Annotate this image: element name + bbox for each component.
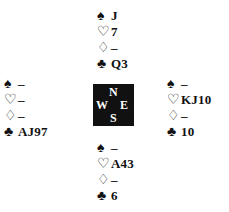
south-clubs: ♣6 <box>97 188 134 204</box>
north-hearts-cards: 7 <box>111 24 118 39</box>
spade-icon: ♠ <box>167 76 181 92</box>
diamond-icon: ♢ <box>97 172 111 188</box>
north-hearts: ♡7 <box>97 24 128 40</box>
south-clubs-cards: 6 <box>111 188 118 203</box>
south-hearts-cards: A43 <box>111 156 134 171</box>
south-hand: ♠– ♡A43 ♢– ♣6 <box>97 140 134 204</box>
west-spades-cards: – <box>18 76 25 91</box>
west-hand: ♠– ♡– ♢– ♣AJ97 <box>4 76 48 140</box>
south-hearts: ♡A43 <box>97 156 134 172</box>
north-diamonds-cards: – <box>111 40 118 55</box>
diamond-icon: ♢ <box>4 108 18 124</box>
south-spades-cards: – <box>111 140 118 155</box>
west-diamonds-cards: – <box>18 108 25 123</box>
north-spades-cards: J <box>111 8 118 23</box>
north-spades: ♠J <box>97 8 128 24</box>
west-clubs-cards: AJ97 <box>18 124 48 139</box>
east-diamonds: ♢– <box>167 108 211 124</box>
east-clubs-cards: 10 <box>181 124 194 139</box>
spade-icon: ♠ <box>97 140 111 156</box>
east-spades: ♠– <box>167 76 211 92</box>
diamond-icon: ♢ <box>167 108 181 124</box>
heart-icon: ♡ <box>4 92 18 108</box>
spade-icon: ♠ <box>97 8 111 24</box>
club-icon: ♣ <box>97 56 111 72</box>
club-icon: ♣ <box>4 124 18 140</box>
club-icon: ♣ <box>97 188 111 204</box>
north-diamonds: ♢– <box>97 40 128 56</box>
spade-icon: ♠ <box>4 76 18 92</box>
east-clubs: ♣10 <box>167 124 211 140</box>
compass-table: N W E S <box>93 84 134 126</box>
south-diamonds: ♢– <box>97 172 134 188</box>
east-hand: ♠– ♡KJ10 ♢– ♣10 <box>167 76 211 140</box>
compass-west: W <box>96 99 108 111</box>
north-clubs: ♣Q3 <box>97 56 128 72</box>
east-spades-cards: – <box>181 76 188 91</box>
west-clubs: ♣AJ97 <box>4 124 48 140</box>
heart-icon: ♡ <box>97 156 111 172</box>
south-diamonds-cards: – <box>111 172 118 187</box>
west-hearts: ♡– <box>4 92 48 108</box>
club-icon: ♣ <box>167 124 181 140</box>
north-hand: ♠J ♡7 ♢– ♣Q3 <box>97 8 128 72</box>
west-diamonds: ♢– <box>4 108 48 124</box>
south-spades: ♠– <box>97 140 134 156</box>
east-diamonds-cards: – <box>181 108 188 123</box>
compass-south: S <box>110 112 117 124</box>
compass-north: N <box>109 86 118 98</box>
east-hearts-cards: KJ10 <box>181 92 211 107</box>
west-hearts-cards: – <box>18 92 25 107</box>
east-hearts: ♡KJ10 <box>167 92 211 108</box>
diamond-icon: ♢ <box>97 40 111 56</box>
heart-icon: ♡ <box>167 92 181 108</box>
west-spades: ♠– <box>4 76 48 92</box>
compass-east: E <box>120 99 128 111</box>
north-clubs-cards: Q3 <box>111 56 128 71</box>
heart-icon: ♡ <box>97 24 111 40</box>
